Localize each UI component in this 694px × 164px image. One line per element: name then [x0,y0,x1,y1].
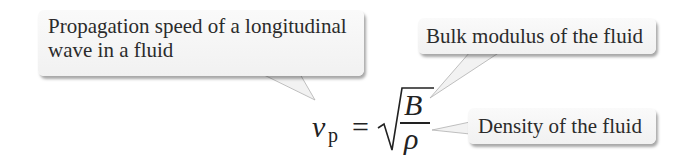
callout-text: Bulk modulus of the fluid [426,24,643,48]
denominator-density: ρ [404,122,418,156]
equals-sign: = [352,110,369,144]
callout-text-line2: wave in a fluid [48,38,364,62]
callout-text-line1: Propagation speed of a longitudinal [48,14,364,38]
numerator-bulk-modulus: B [404,88,422,122]
velocity-subscript: p [328,124,338,147]
density-callout: Density of the fluid [468,108,656,144]
velocity-symbol: v [312,110,325,144]
bulk-modulus-callout: Bulk modulus of the fluid [418,18,656,54]
callout-text: Density of the fluid [478,114,642,138]
propagation-speed-callout: Propagation speed of a longitudinal wave… [38,10,364,76]
